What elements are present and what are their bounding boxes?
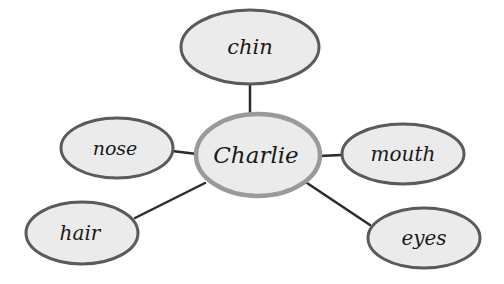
- node-center-charlie: Charlie: [196, 114, 320, 196]
- node-eyes: eyes: [368, 208, 480, 268]
- connector-eyes: [304, 181, 370, 225]
- node-label-nose: nose: [93, 137, 138, 159]
- connector-hair: [135, 183, 205, 218]
- connector-mouth: [319, 155, 342, 156]
- node-label-center: Charlie: [213, 142, 298, 168]
- node-label-mouth: mouth: [371, 142, 436, 166]
- node-nose: nose: [61, 118, 173, 178]
- node-label-hair: hair: [60, 221, 102, 245]
- mind-map-diagram: chin nose mouth hair eyes Charlie: [0, 0, 504, 284]
- node-hair: hair: [26, 202, 138, 264]
- node-label-chin: chin: [227, 35, 273, 59]
- connector-nose: [172, 151, 197, 154]
- node-chin: chin: [181, 10, 319, 84]
- node-mouth: mouth: [342, 124, 464, 184]
- node-label-eyes: eyes: [401, 226, 446, 250]
